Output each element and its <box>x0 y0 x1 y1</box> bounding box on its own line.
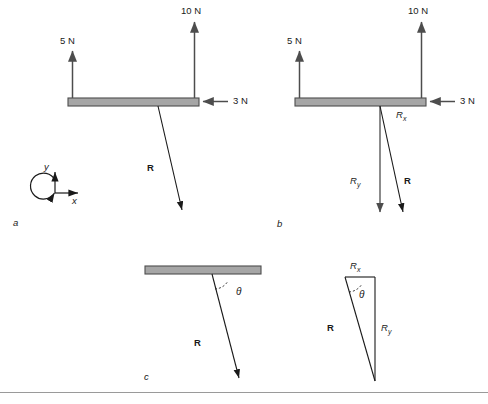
resultant-label-c: R <box>194 338 201 348</box>
force-label-3n-b: 3 N <box>460 96 475 106</box>
panel-label-c: c <box>144 372 149 382</box>
force-vector-figure: 10 N 5 N 3 N R y x a 10 N 5 N 3 N Rx Ry … <box>0 0 488 404</box>
panel-label-b: b <box>277 219 282 229</box>
resultant-label-a: R <box>147 163 154 173</box>
force-label-10n-b: 10 N <box>408 6 428 16</box>
resultant-label-b: R <box>404 176 411 186</box>
resultant-arrow-b <box>380 106 403 212</box>
force-label-10n-a: 10 N <box>181 6 201 16</box>
resultant-arrow-a <box>158 106 182 210</box>
component-y-label-b: Ry <box>350 176 360 188</box>
component-y-label-triangle-text: R <box>381 322 388 333</box>
beam-panel-c <box>145 266 261 274</box>
force-label-5n-a: 5 N <box>60 36 75 46</box>
component-x-label-b-text: R <box>396 109 403 120</box>
angle-arc-c <box>215 281 228 289</box>
beam-panel-a <box>68 98 199 106</box>
component-x-label-b-sub: x <box>403 115 407 122</box>
force-label-3n-a: 3 N <box>233 96 248 106</box>
force-label-5n-b: 5 N <box>287 36 302 46</box>
resultant-label-triangle: R <box>327 323 334 333</box>
axis-label-y: y <box>44 162 49 172</box>
panel-label-a: a <box>13 218 18 228</box>
component-y-label-triangle: Ry <box>381 323 391 335</box>
component-x-label-triangle-sub: x <box>357 266 361 273</box>
component-y-label-triangle-sub: y <box>388 328 392 335</box>
component-y-label-b-text: R <box>350 175 357 186</box>
component-x-label-triangle: Rx <box>350 261 360 273</box>
beam-panel-b <box>295 98 426 106</box>
angle-label-triangle: θ <box>359 290 364 300</box>
component-y-label-b-sub: y <box>357 181 361 188</box>
resultant-arrow-c <box>212 274 239 378</box>
angle-label-c: θ <box>236 287 241 297</box>
axis-label-x: x <box>72 196 77 206</box>
curved-ccw-arrow-icon <box>31 173 55 199</box>
component-x-label-b: Rx <box>396 110 406 122</box>
component-x-label-triangle-text: R <box>350 260 357 271</box>
